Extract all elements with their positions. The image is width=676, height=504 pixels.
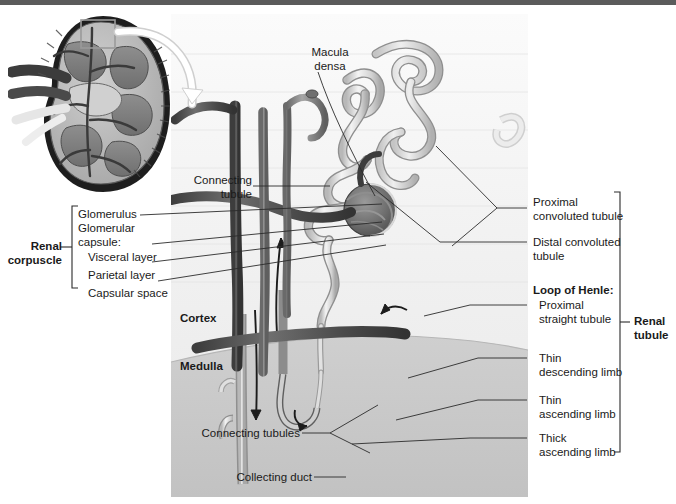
label-distal-convoluted-tubule: Distal convoluted tubule	[533, 236, 621, 263]
label-parietal-layer: Parietal layer	[88, 269, 155, 283]
nephron-illustration	[171, 14, 528, 497]
label-medulla: Medulla	[180, 360, 223, 374]
label-proximal-straight-tubule: Proximal straight tubule	[539, 299, 611, 326]
label-loop-of-henle: Loop of Henle:	[533, 284, 614, 298]
label-thin-descending-limb: Thin descending limb	[539, 352, 622, 379]
top-strip	[0, 0, 676, 5]
label-connecting-tubules: Connecting tubules	[182, 427, 300, 441]
label-connecting-tubule: Connecting tubule	[170, 174, 252, 201]
label-macula-densa: Macula densa	[286, 46, 374, 73]
label-capsular-space: Capsular space	[88, 287, 168, 301]
label-proximal-convoluted-tubule: Proximal convoluted tubule	[533, 196, 623, 223]
label-collecting-duct: Collecting duct	[212, 471, 312, 485]
kidney-cross-section-inset	[8, 10, 198, 200]
label-renal-tubule: Renal tubule	[634, 315, 669, 342]
label-thin-ascending-limb: Thin ascending limb	[539, 394, 616, 421]
label-glomerular-capsule: Glomerular capsule:	[78, 222, 135, 249]
label-glomerulus: Glomerulus	[78, 208, 137, 222]
illustration-panel	[171, 14, 528, 497]
nephron-figure: Macula densa Connecting tubule Renal cor…	[0, 0, 676, 504]
label-thick-ascending-limb: Thick ascending limb	[539, 432, 616, 459]
macula-densa-shape	[306, 90, 318, 98]
label-renal-corpuscle: Renal corpuscle	[6, 240, 62, 267]
label-cortex: Cortex	[180, 312, 216, 326]
label-visceral-layer: Visceral layer	[88, 251, 157, 265]
